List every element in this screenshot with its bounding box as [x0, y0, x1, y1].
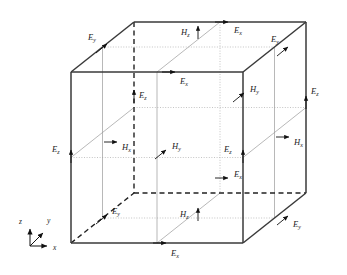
field-label-E-x-mid-dashed: Ex: [233, 169, 242, 180]
field-label-H-z-top-back: Hz: [180, 27, 190, 38]
field-arrow-E-y-top-left: [96, 44, 107, 53]
field-label-subscript: z: [228, 149, 232, 155]
field-label-subscript: y: [92, 37, 96, 43]
axis-label-y: y: [46, 216, 51, 225]
field-label-subscript: x: [127, 147, 131, 153]
field-label-E-x-top-back: Ex: [233, 25, 242, 36]
grid-line-top-depth: [157, 22, 220, 72]
field-label-subscript: x: [238, 174, 242, 180]
field-label-subscript: x: [238, 30, 242, 36]
field-label-subscript: z: [186, 32, 190, 38]
field-label-H-y-center: Hy: [171, 141, 181, 152]
yee-cell-diagram: EyHzExEyExEzHyEzHxEzHyEzHxExEyHzEyEx zyx: [0, 0, 347, 275]
axis-label-x: x: [52, 243, 57, 252]
field-label-group: EyHzExEyExEzHyEzHxEzHyEzHxExEyHzEyEx: [51, 25, 319, 259]
field-label-subscript: z: [143, 95, 147, 101]
field-label-subscript: y: [297, 224, 301, 230]
field-label-H-y-upper-right: Hy: [249, 84, 259, 95]
field-label-subscript: y: [116, 211, 120, 217]
cube-interior-grid: [71, 22, 306, 243]
field-label-subscript: y: [177, 146, 181, 152]
field-label-H-x-right-inner: Hx: [293, 137, 303, 148]
field-label-E-z-upper-mid: Ez: [138, 90, 147, 101]
field-label-subscript: z: [56, 149, 60, 155]
field-label-subscript: z: [315, 91, 319, 97]
cube-visible-edges: [71, 22, 306, 243]
field-label-E-x-top-front: Ex: [179, 76, 188, 87]
grid-line-bottom-depth: [157, 193, 220, 243]
field-label-subscript: x: [184, 81, 188, 87]
field-label-E-y-top-right: Ey: [270, 34, 279, 45]
field-label-E-y-bottom-left: Ey: [111, 206, 120, 217]
field-label-subscript: x: [175, 253, 179, 259]
axis-label-z: z: [18, 217, 22, 226]
field-label-subscript: y: [255, 89, 259, 95]
figure-canvas: EyHzExEyExEzHyEzHxEzHyEzHxExEyHzEyEx zyx: [0, 0, 347, 275]
field-label-E-y-bottom-right: Ey: [292, 219, 301, 230]
field-label-subscript: z: [185, 214, 189, 220]
axis-line-y: [30, 233, 43, 246]
field-label-E-z-right-lower: Ez: [223, 144, 232, 155]
field-label-E-x-bottom-front: Ex: [170, 248, 179, 259]
field-arrow-E-y-bottom-right: [277, 216, 288, 225]
field-arrow-E-y-top-right: [277, 47, 288, 56]
cube-hidden-edges: [71, 22, 306, 243]
field-label-H-z-bottom: Hz: [179, 209, 189, 220]
field-arrow-E-y-bottom-left: [96, 215, 107, 224]
field-label-E-y-top-left: Ey: [87, 32, 96, 43]
field-label-E-z-left-edge: Ez: [51, 144, 60, 155]
field-label-H-x-left-inner: Hx: [121, 142, 131, 153]
field-label-E-z-right-upper: Ez: [310, 86, 319, 97]
field-label-subscript: x: [299, 142, 303, 148]
coordinate-axes: zyx: [18, 216, 57, 252]
field-arrows: [71, 22, 306, 243]
cube-dotted-grid: [71, 22, 306, 218]
field-label-subscript: y: [275, 39, 279, 45]
